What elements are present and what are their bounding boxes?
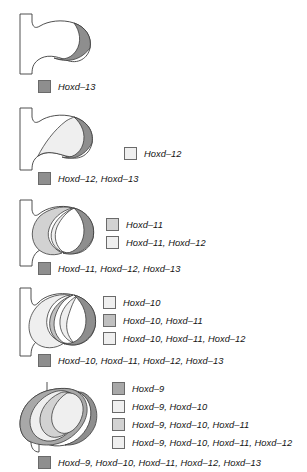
- legend-row: Hoxd–10, Hoxd–11, Hoxd–12: [103, 332, 246, 345]
- legend-swatch: [38, 354, 51, 367]
- panel-5: Hoxd–9 Hoxd–9, Hoxd–10 Hoxd–9, Hoxd–10, …: [0, 372, 307, 472]
- legend-label: Hoxd–10, Hoxd–11, Hoxd–12, Hoxd–13: [58, 356, 223, 366]
- legend-row: Hoxd–11, Hoxd–12, Hoxd–13: [38, 262, 181, 275]
- legend-row: Hoxd–9, Hoxd–10: [112, 400, 207, 413]
- limb-bud-diagram-4: [0, 280, 110, 365]
- legend-label: Hoxd–9, Hoxd–10, Hoxd–11, Hoxd–12, Hoxd–…: [58, 458, 261, 468]
- legend-label: Hoxd–11, Hoxd–12, Hoxd–13: [58, 264, 181, 274]
- legend-swatch: [103, 296, 116, 309]
- legend-swatch: [124, 147, 137, 160]
- legend-label: Hoxd–9, Hoxd–10, Hoxd–11: [132, 420, 249, 430]
- legend-label: Hoxd–9, Hoxd–10, Hoxd–11, Hoxd–12: [132, 438, 292, 448]
- limb-bud-diagram-1: [0, 0, 110, 80]
- legend-row: Hoxd–9, Hoxd–10, Hoxd–11: [112, 418, 249, 431]
- legend-row: Hoxd–9: [112, 382, 164, 395]
- panel-3: Hoxd–11 Hoxd–11, Hoxd–12 Hoxd–11, Hoxd–1…: [0, 190, 307, 280]
- legend-row: Hoxd–9, Hoxd–10, Hoxd–11, Hoxd–12, Hoxd–…: [38, 456, 261, 469]
- legend-swatch: [38, 172, 51, 185]
- legend-swatch: [112, 382, 125, 395]
- legend-label: Hoxd–12: [144, 149, 182, 159]
- legend-row: Hoxd–9, Hoxd–10, Hoxd–11, Hoxd–12: [112, 436, 292, 449]
- limb-bud-diagram-2: [0, 100, 110, 180]
- legend-swatch: [38, 262, 51, 275]
- legend-label: Hoxd–9, Hoxd–10: [132, 402, 207, 412]
- legend-row: Hoxd–12, Hoxd–13: [38, 172, 138, 185]
- legend-label: Hoxd–10, Hoxd–11, Hoxd–12: [123, 334, 246, 344]
- legend-swatch: [112, 436, 125, 449]
- legend-swatch: [38, 80, 51, 93]
- hoxd-expression-figure: Hoxd–13 Hoxd–12 Hoxd–12, Hoxd–13 Hoxd–11: [0, 0, 307, 472]
- legend-row: Hoxd–13: [38, 80, 96, 93]
- legend-swatch: [38, 456, 51, 469]
- legend-row: Hoxd–11: [106, 218, 163, 231]
- legend-row: Hoxd–10: [103, 296, 161, 309]
- legend-swatch: [106, 236, 119, 249]
- legend-label: Hoxd–12, Hoxd–13: [58, 174, 138, 184]
- legend-row: Hoxd–10, Hoxd–11, Hoxd–12, Hoxd–13: [38, 354, 223, 367]
- panel-4: Hoxd–10 Hoxd–10, Hoxd–11 Hoxd–10, Hoxd–1…: [0, 280, 307, 372]
- legend-row: Hoxd–11, Hoxd–12: [106, 236, 206, 249]
- legend-swatch: [103, 314, 116, 327]
- legend-label: Hoxd–13: [58, 82, 96, 92]
- legend-swatch: [112, 418, 125, 431]
- legend-label: Hoxd–9: [132, 384, 164, 394]
- legend-label: Hoxd–10, Hoxd–11: [123, 316, 203, 326]
- legend-swatch: [112, 400, 125, 413]
- limb-bud-diagram-5: [0, 372, 115, 462]
- legend-row: Hoxd–10, Hoxd–11: [103, 314, 203, 327]
- legend-label: Hoxd–11: [126, 220, 163, 230]
- legend-row: Hoxd–12: [124, 147, 182, 160]
- panel-1: Hoxd–13: [0, 0, 307, 100]
- legend-swatch: [103, 332, 116, 345]
- legend-label: Hoxd–10: [123, 298, 161, 308]
- panel-2: Hoxd–12 Hoxd–12, Hoxd–13: [0, 100, 307, 190]
- legend-label: Hoxd–11, Hoxd–12: [126, 238, 206, 248]
- legend-swatch: [106, 218, 119, 231]
